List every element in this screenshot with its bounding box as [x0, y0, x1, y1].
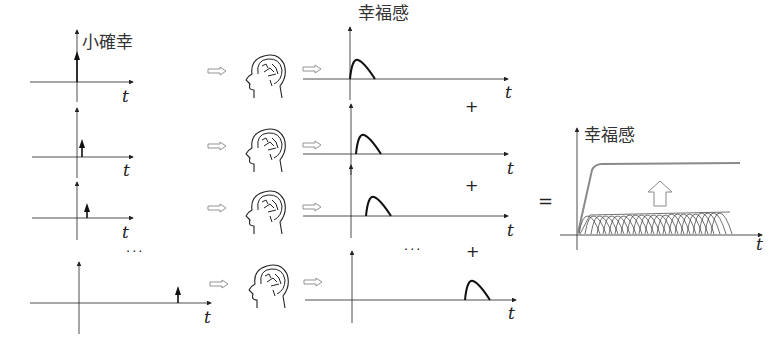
arrow-in-2 — [208, 142, 226, 150]
brain-head-icon — [246, 55, 285, 98]
time-label: t — [204, 309, 211, 326]
arrow-in-3 — [208, 204, 226, 212]
ellipsis: ··· — [126, 245, 144, 258]
brain-head-icon — [246, 129, 285, 172]
arrow-out-1 — [303, 65, 321, 73]
arrow-in-4 — [210, 280, 228, 288]
ellipsis: ··· — [404, 243, 422, 256]
input-plot-3 — [32, 182, 133, 240]
time-label: t — [122, 88, 129, 105]
time-label: t — [756, 236, 763, 253]
time-label: t — [123, 162, 130, 179]
time-label: t — [508, 305, 515, 322]
output-plot-1 — [303, 27, 508, 100]
time-label: t — [507, 222, 514, 239]
arrow-in-1 — [208, 67, 226, 75]
output-plot-4 — [305, 251, 516, 323]
input-plot-2 — [32, 108, 133, 178]
hollow-up-arrow-icon — [648, 181, 672, 206]
arrow-out-4 — [304, 278, 322, 286]
time-label: t — [505, 84, 512, 101]
brain-head-icon — [249, 265, 288, 308]
arrow-out-3 — [303, 203, 321, 211]
plus-sign: + — [465, 99, 478, 115]
equals-sign: = — [538, 192, 553, 210]
diagram-canvas: 小確幸 幸福感 幸福感 t t t t t t t t t + + + ··· … — [0, 0, 783, 346]
arrow-out-2 — [303, 141, 321, 149]
sum-plot — [560, 128, 762, 250]
plus-sign: + — [465, 178, 478, 194]
plus-sign: + — [466, 244, 479, 260]
input-plot-4 — [30, 262, 211, 334]
time-label: t — [122, 224, 129, 241]
sum-axis-label: 幸福感 — [584, 127, 635, 144]
brain-head-icon — [246, 191, 285, 234]
time-label: t — [507, 160, 514, 177]
input-axis-label: 小確幸 — [82, 34, 133, 51]
output-axis-label: 幸福感 — [358, 5, 409, 22]
